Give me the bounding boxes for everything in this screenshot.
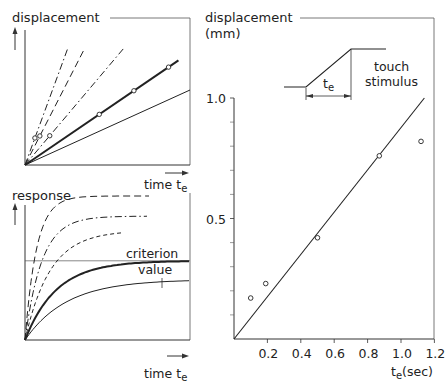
duration-label: te bbox=[323, 76, 334, 93]
bl-ylabel: response bbox=[12, 188, 71, 203]
duration-label-sub: e bbox=[328, 82, 334, 93]
r-fit-group bbox=[234, 98, 424, 339]
tl-xlabel-sub: e bbox=[181, 183, 187, 194]
panel-displacement-vs-time: displacement time te bbox=[12, 10, 190, 194]
criterion-label-line1: criterion bbox=[126, 246, 178, 261]
tl-ylabel: displacement bbox=[12, 10, 100, 25]
r-ytick-label-1: 1.0 bbox=[206, 91, 226, 106]
r-fit-line bbox=[234, 98, 424, 339]
tl-marker-3-1 bbox=[48, 134, 52, 138]
tl-marker-4-1 bbox=[97, 112, 101, 116]
bl-series-line-2 bbox=[25, 216, 147, 340]
tl-series-line-1 bbox=[25, 48, 68, 165]
tl-xlabel-main: time t bbox=[144, 177, 181, 192]
bl-x-arrowhead bbox=[182, 354, 189, 359]
r-ytick-label-0: 0.5 bbox=[206, 212, 226, 227]
tl-marker-1-1 bbox=[33, 136, 37, 140]
r-data-point-1 bbox=[248, 296, 253, 301]
tl-series-line-4 bbox=[25, 60, 178, 165]
tl-marker-2-1 bbox=[38, 134, 42, 138]
bl-series-line-5 bbox=[25, 281, 189, 340]
tl-series-line-5 bbox=[25, 90, 190, 165]
r-points-group bbox=[248, 139, 423, 300]
r-xtick-label-4: 1.0 bbox=[392, 346, 412, 361]
bl-xlabel-main: time t bbox=[144, 366, 181, 381]
tl-marker-4-3 bbox=[166, 65, 170, 69]
r-xtick-label-0: 0.2 bbox=[258, 346, 278, 361]
tl-marker-4-2 bbox=[132, 89, 136, 93]
r-xtick-label-3: 0.8 bbox=[359, 346, 379, 361]
r-xtick-label-1: 0.4 bbox=[292, 346, 312, 361]
bl-xlabel: time te bbox=[144, 366, 187, 383]
figure: displacement time te response time te cr… bbox=[0, 0, 447, 391]
r-data-point-2 bbox=[263, 281, 268, 286]
tl-x-arrowhead bbox=[182, 171, 189, 176]
r-ylabel: displacement bbox=[205, 10, 293, 25]
tl-series-group bbox=[25, 48, 190, 165]
duration-arrow-left bbox=[306, 94, 313, 98]
r-xtick-label-2: 0.6 bbox=[325, 346, 345, 361]
criterion-label-line2: value bbox=[138, 262, 172, 277]
bl-xlabel-sub: e bbox=[181, 372, 187, 383]
tl-y-arrowhead bbox=[13, 27, 18, 34]
r-xlabel-unit: (sec) bbox=[402, 364, 433, 379]
inset-label-line2: stimulus bbox=[365, 74, 418, 89]
r-ylabel-unit: (mm) bbox=[205, 26, 240, 41]
panel-response-vs-time: response time te criterion value bbox=[12, 188, 190, 383]
touch-stimulus-inset: te touch stimulus bbox=[284, 49, 418, 100]
tl-xlabel: time te bbox=[144, 177, 187, 194]
r-data-point-4 bbox=[377, 154, 382, 159]
r-data-point-5 bbox=[419, 139, 424, 144]
inset-label-line1: touch bbox=[374, 59, 409, 74]
r-xtick-label-5: 1.2 bbox=[425, 346, 445, 361]
panel-displacement-vs-te: displacement (mm) 0.20.40.60.81.01.20.51… bbox=[205, 10, 445, 381]
bl-y-arrowhead bbox=[13, 203, 18, 210]
bl-series-line-3 bbox=[25, 233, 121, 340]
r-xlabel: te(sec) bbox=[391, 364, 433, 381]
r-ticks-group: 0.20.40.60.81.01.20.51.0 bbox=[206, 91, 445, 361]
duration-arrow-right bbox=[344, 94, 351, 98]
r-data-point-3 bbox=[315, 235, 320, 240]
tl-series-line-2 bbox=[25, 48, 85, 165]
